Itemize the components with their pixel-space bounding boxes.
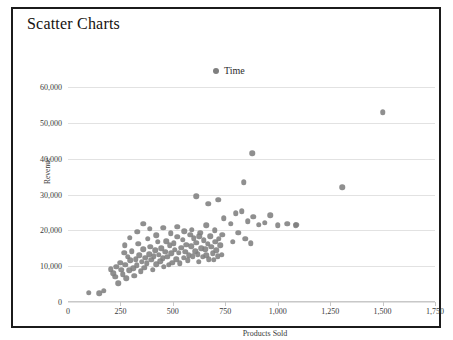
page-title: Scatter Charts [27,15,120,33]
chart-legend: Time [213,65,245,76]
y-axis-title: Revenue [43,158,52,184]
x-axis-title: Products Sold [243,329,288,338]
chart-panel: Scatter Charts Time Revenue Products Sol… [11,7,441,328]
legend-marker-icon [213,68,219,74]
legend-label: Time [224,65,245,76]
